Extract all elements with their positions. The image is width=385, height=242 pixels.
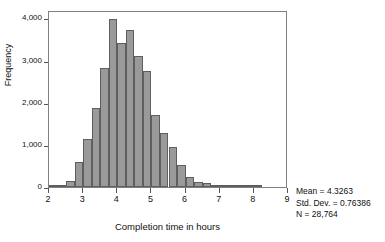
histogram-bar (186, 177, 195, 187)
y-axis-title: Frequency (3, 10, 13, 120)
histogram-bar (254, 185, 263, 187)
x-tick-mark (185, 188, 186, 193)
x-tick-label: 4 (108, 194, 124, 205)
x-tick-mark (116, 188, 117, 193)
histogram-bars (49, 12, 286, 187)
stat-mean: Mean = 4.3263 (296, 186, 371, 198)
x-tick-mark (150, 188, 151, 193)
histogram-bar (220, 185, 229, 187)
x-tick-mark (253, 188, 254, 193)
stat-std-dev: Std. Dev. = 0.76386 (296, 198, 371, 210)
y-tick-label: 0 (38, 182, 42, 192)
histogram-bar (75, 162, 84, 187)
x-tick-mark (219, 188, 220, 193)
histogram-bar (169, 147, 178, 187)
y-tick-label: 1,000 (22, 140, 42, 150)
histogram-bar (245, 185, 254, 187)
x-tick-label: 7 (211, 194, 227, 205)
histogram-bar (49, 185, 58, 187)
histogram-bar (177, 165, 186, 187)
y-tick: 1,000 (0, 146, 48, 147)
histogram-bar (134, 56, 143, 187)
x-tick-mark (82, 188, 83, 193)
plot-area (48, 11, 287, 188)
histogram-bar (160, 133, 169, 187)
histogram-bar (143, 71, 152, 187)
x-tick-mark (287, 188, 288, 193)
histogram-bar (237, 185, 246, 187)
histogram-bar (66, 181, 75, 187)
histogram-figure: 01,0002,0003,0004,000 Frequency 23456789… (0, 0, 385, 242)
x-tick-label: 8 (245, 194, 261, 205)
y-tick: 0 (0, 188, 48, 189)
x-axis-title: Completion time in hours (48, 221, 287, 232)
x-tick-label: 5 (142, 194, 158, 205)
x-tick-label: 6 (177, 194, 193, 205)
y-tick-label: 2,000 (22, 98, 42, 108)
x-tick-mark (48, 188, 49, 193)
x-axis: 23456789 (48, 188, 287, 218)
x-tick-label: 2 (40, 194, 56, 205)
histogram-bar (211, 185, 220, 187)
histogram-bar (109, 19, 118, 187)
page-bleed-artifact (0, 0, 385, 7)
histogram-bar (203, 183, 212, 187)
histogram-bar (228, 185, 237, 187)
histogram-bar (151, 115, 160, 187)
stat-n: N = 28,764 (296, 209, 371, 221)
histogram-bar (58, 185, 67, 187)
y-tick-label: 3,000 (22, 56, 42, 66)
histogram-bar (100, 68, 109, 187)
histogram-bar (83, 139, 92, 187)
histogram-bar (194, 182, 203, 187)
histogram-bar (92, 108, 101, 187)
histogram-bar (126, 30, 135, 187)
x-tick-label: 9 (279, 194, 295, 205)
y-axis: 01,0002,0003,0004,000 Frequency (0, 0, 48, 199)
x-tick-label: 3 (74, 194, 90, 205)
y-tick-label: 4,000 (22, 13, 42, 23)
histogram-bar (117, 43, 126, 187)
statistics-annotation: Mean = 4.3263 Std. Dev. = 0.76386 N = 28… (296, 186, 371, 221)
